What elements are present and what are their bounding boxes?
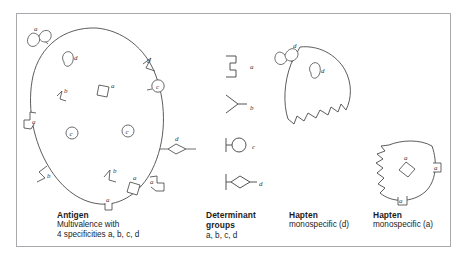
- svg-text:a: a: [133, 174, 137, 182]
- caption-determinant-line-1: groups: [206, 220, 256, 230]
- svg-text:a: a: [404, 154, 408, 162]
- caption-antigen-title: Antigen: [57, 210, 139, 220]
- caption-determinant-groups: Determinant groups a, b, c, d: [206, 210, 256, 241]
- svg-text:a: a: [32, 118, 36, 126]
- svg-text:a: a: [106, 196, 110, 204]
- antigen-edge-determinant-b-left-lower: b: [37, 166, 51, 182]
- antigen-edge-determinant-d-upper-left: a: [27, 25, 51, 46]
- svg-text:b: b: [147, 57, 151, 65]
- antigen-interior-determinant-c-center-left: c: [66, 127, 78, 139]
- antigen-interior-determinant-c-center-right: c: [122, 125, 134, 137]
- svg-text:b: b: [250, 104, 254, 112]
- hapten-a-edge-determinant-a-bottom: a: [398, 196, 407, 205]
- svg-text:d: d: [175, 135, 179, 143]
- svg-text:d: d: [321, 67, 325, 75]
- svg-text:b: b: [47, 172, 51, 180]
- caption-antigen-line-1: Multivalence with: [57, 220, 139, 230]
- svg-text:d: d: [74, 54, 78, 62]
- svg-text:c: c: [252, 143, 256, 151]
- svg-text:a: a: [250, 63, 254, 71]
- svg-text:b: b: [64, 87, 68, 95]
- antigen-edge-determinant-a-right-lower: a: [150, 176, 164, 191]
- determinant-key-glyph-c: c: [226, 138, 256, 152]
- svg-text:a: a: [399, 197, 403, 205]
- caption-determinant-line-2: a, b, c, d: [206, 231, 256, 241]
- caption-hapten-a: Hapten monospecific (a): [373, 210, 433, 230]
- svg-text:a: a: [434, 164, 438, 172]
- svg-text:a: a: [111, 82, 115, 90]
- determinant-key-glyph-d: d: [226, 174, 263, 190]
- caption-hapten-d-title: Hapten: [289, 210, 349, 220]
- caption-hapten-d-line-1: monospecific (d): [289, 220, 349, 230]
- determinant-key-glyph-b: b: [226, 95, 254, 113]
- caption-determinant-title: Determinant: [206, 210, 256, 220]
- caption-antigen-line-2: 4 specificities a, b, c, d: [57, 230, 139, 240]
- caption-antigen: Antigen Multivalence with 4 specificitie…: [57, 210, 139, 240]
- antigen-edge-determinant-d-right-middle: d: [160, 135, 196, 154]
- hapten-a-edge-determinant-a-right: a: [433, 163, 441, 172]
- svg-text:a: a: [150, 178, 154, 186]
- caption-hapten-a-title: Hapten: [373, 210, 433, 220]
- caption-hapten-a-line-1: monospecific (a): [373, 220, 433, 230]
- caption-hapten-d: Hapten monospecific (d): [289, 210, 349, 230]
- svg-text:d: d: [293, 42, 297, 50]
- svg-text:d: d: [259, 180, 263, 188]
- svg-text:a: a: [34, 25, 38, 33]
- svg-text:b: b: [113, 167, 117, 175]
- figure-canvas: a b c d a b: [0, 0, 467, 267]
- determinant-key-glyph-a: a: [226, 56, 254, 77]
